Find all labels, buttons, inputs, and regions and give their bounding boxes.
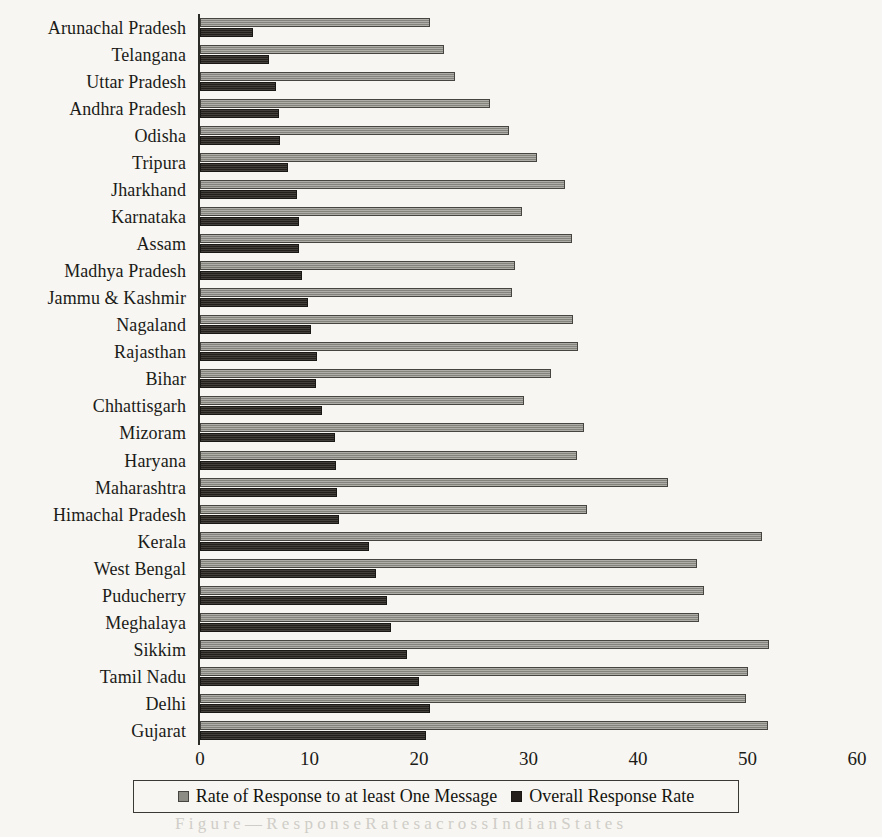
bar-row: Karnataka xyxy=(0,203,882,230)
bar-overall-response-rate xyxy=(200,55,269,64)
x-axis-tick-label: 60 xyxy=(848,748,867,770)
bar-rate-of-response-one-message xyxy=(200,532,762,541)
bar-rate-of-response-one-message xyxy=(200,99,490,108)
category-label: Meghalaya xyxy=(105,612,186,633)
bar-rate-of-response-one-message xyxy=(200,315,573,324)
category-label: Assam xyxy=(137,234,187,255)
bar-overall-response-rate xyxy=(200,731,426,740)
bar-group xyxy=(200,691,882,718)
bar-row: West Bengal xyxy=(0,555,882,582)
bar-group xyxy=(200,41,882,68)
bar-row: Uttar Pradesh xyxy=(0,68,882,95)
legend-entry[interactable]: Overall Response Rate xyxy=(511,786,694,807)
chart-legend: Rate of Response to at least One Message… xyxy=(133,780,739,813)
bar-group xyxy=(200,149,882,176)
bar-overall-response-rate xyxy=(200,298,308,307)
bar-row: Tripura xyxy=(0,149,882,176)
bar-rate-of-response-one-message xyxy=(200,288,512,297)
bar-group xyxy=(200,501,882,528)
bar-overall-response-rate xyxy=(200,379,316,388)
bar-group xyxy=(200,231,882,258)
category-label: Madhya Pradesh xyxy=(64,261,186,282)
category-label: Gujarat xyxy=(131,721,186,742)
bar-group xyxy=(200,258,882,285)
category-label: Puducherry xyxy=(102,585,186,606)
bar-overall-response-rate xyxy=(200,623,391,632)
category-label: Jharkhand xyxy=(111,179,186,200)
bar-rate-of-response-one-message xyxy=(200,505,587,514)
legend-entry[interactable]: Rate of Response to at least One Message xyxy=(178,786,497,807)
bar-rate-of-response-one-message xyxy=(200,207,522,216)
bar-rate-of-response-one-message xyxy=(200,18,430,27)
bar-rate-of-response-one-message xyxy=(200,342,578,351)
bar-row: Arunachal Pradesh xyxy=(0,14,882,41)
bar-group xyxy=(200,285,882,312)
bar-rate-of-response-one-message xyxy=(200,261,515,270)
bar-group xyxy=(200,95,882,122)
chart-page: Arunachal PradeshTelanganaUttar PradeshA… xyxy=(0,0,882,837)
bar-group xyxy=(200,636,882,663)
x-axis-tick-label: 50 xyxy=(738,748,757,770)
bar-overall-response-rate xyxy=(200,352,317,361)
legend-swatch-light-icon xyxy=(178,791,189,802)
bar-rate-of-response-one-message xyxy=(200,586,704,595)
category-label: Arunachal Pradesh xyxy=(48,17,186,38)
bar-group xyxy=(200,582,882,609)
bar-group xyxy=(200,555,882,582)
bar-rate-of-response-one-message xyxy=(200,640,769,649)
bar-rate-of-response-one-message xyxy=(200,72,455,81)
bar-rate-of-response-one-message xyxy=(200,180,565,189)
category-label: West Bengal xyxy=(94,558,186,579)
bar-overall-response-rate xyxy=(200,569,376,578)
bar-rate-of-response-one-message xyxy=(200,478,668,487)
bar-rate-of-response-one-message xyxy=(200,369,551,378)
bar-row: Gujarat xyxy=(0,718,882,745)
bar-overall-response-rate xyxy=(200,82,276,91)
category-label: Odisha xyxy=(134,125,186,146)
bar-group xyxy=(200,203,882,230)
bar-row: Maharashtra xyxy=(0,474,882,501)
bar-group xyxy=(200,474,882,501)
bar-group xyxy=(200,609,882,636)
x-axis: 0102030405060 xyxy=(0,742,882,776)
bar-overall-response-rate xyxy=(200,461,336,470)
bar-overall-response-rate xyxy=(200,406,322,415)
category-label: Haryana xyxy=(124,450,186,471)
category-label: Nagaland xyxy=(116,315,186,336)
bar-group xyxy=(200,68,882,95)
bar-row: Nagaland xyxy=(0,312,882,339)
bar-overall-response-rate xyxy=(200,28,253,37)
bar-rate-of-response-one-message xyxy=(200,45,444,54)
bar-group xyxy=(200,14,882,41)
bar-row: Rajasthan xyxy=(0,339,882,366)
bar-group xyxy=(200,312,882,339)
bar-rate-of-response-one-message xyxy=(200,153,537,162)
category-label: Telangana xyxy=(111,44,186,65)
bar-group xyxy=(200,339,882,366)
bar-row: Meghalaya xyxy=(0,609,882,636)
bar-row: Delhi xyxy=(0,691,882,718)
bar-row: Haryana xyxy=(0,447,882,474)
x-axis-tick-label: 30 xyxy=(519,748,538,770)
bar-overall-response-rate xyxy=(200,136,280,145)
category-label: Jammu & Kashmir xyxy=(48,288,187,309)
bar-rate-of-response-one-message xyxy=(200,721,768,730)
category-label: Rajasthan xyxy=(114,342,186,363)
bar-rate-of-response-one-message xyxy=(200,667,748,676)
category-label: Karnataka xyxy=(111,206,186,227)
bar-overall-response-rate xyxy=(200,650,407,659)
bar-row: Odisha xyxy=(0,122,882,149)
bar-overall-response-rate xyxy=(200,109,279,118)
legend-swatch-dark-icon xyxy=(511,791,522,802)
bar-chart-plot-area: Arunachal PradeshTelanganaUttar PradeshA… xyxy=(0,0,882,745)
figure-caption-text: F i g u r e — R e s p o n s e R a t e s … xyxy=(175,818,623,834)
bar-rate-of-response-one-message xyxy=(200,396,524,405)
bar-row: Tamil Nadu xyxy=(0,664,882,691)
bar-row: Jammu & Kashmir xyxy=(0,285,882,312)
figure-caption: F i g u r e — R e s p o n s e R a t e s … xyxy=(0,818,882,837)
bar-row: Chhattisgarh xyxy=(0,393,882,420)
x-axis-tick-label: 0 xyxy=(195,748,205,770)
bar-group xyxy=(200,718,882,745)
bar-overall-response-rate xyxy=(200,677,419,686)
bar-group xyxy=(200,366,882,393)
